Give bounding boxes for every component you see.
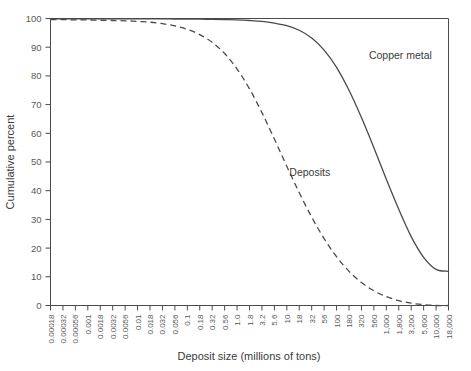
x-axis-tick-label: 0.018 — [146, 314, 155, 335]
x-axis-tick-label: 56 — [320, 314, 329, 323]
x-axis-tick-label: 18 — [295, 314, 304, 323]
x-axis-tick-label: 1.0 — [233, 314, 242, 326]
x-axis-tick-label: 0.18 — [196, 314, 205, 330]
y-axis-tick-label: 20 — [31, 243, 42, 254]
y-axis-tick-label: 80 — [31, 70, 42, 81]
y-axis-tick-label: 10 — [31, 271, 42, 282]
x-axis-tick-label: 0.032 — [158, 314, 167, 335]
series-label-copper-metal: Copper metal — [369, 49, 432, 61]
x-axis-tick-label: 0.0032 — [109, 314, 118, 339]
y-axis-tick-label: 50 — [31, 156, 42, 167]
x-axis-tick-label: 0.00018 — [47, 314, 56, 343]
y-axis-tick-label: 40 — [31, 185, 42, 196]
x-axis-tick-label: 3.2 — [258, 314, 267, 326]
x-axis-tick-label: 3,200 — [407, 314, 416, 335]
x-axis-tick-label: 0.1 — [183, 314, 192, 326]
y-axis-tick-label: 30 — [31, 214, 42, 225]
x-axis-tick-label: 1,000 — [382, 314, 391, 335]
x-axis-tick-label: 0.0056 — [121, 314, 130, 339]
x-axis: 0.000180.000320.000560.0010.00180.00320.… — [47, 306, 454, 344]
x-axis-tick-label: 10,000 — [432, 314, 441, 339]
cumulative-percent-chart: 0102030405060708090100 0.000180.000320.0… — [0, 0, 471, 371]
chart-figure: 0102030405060708090100 0.000180.000320.0… — [0, 0, 471, 371]
y-axis-tick-label: 60 — [31, 128, 42, 139]
x-axis-tick-label: 5,600 — [420, 314, 429, 335]
x-axis-tick-label: 32 — [308, 314, 317, 323]
x-axis-tick-label: 0.00032 — [59, 314, 68, 343]
x-axis-tick-label: 0.32 — [208, 314, 217, 330]
x-axis-tick-label: 18,000 — [445, 314, 454, 339]
x-axis-tick-label: 100 — [333, 314, 342, 328]
x-axis-tick-label: 0.56 — [221, 314, 230, 330]
x-axis-tick-label: 1,800 — [395, 314, 404, 335]
y-axis-title: Cumulative percent — [4, 115, 16, 210]
x-axis-tick-label: 0.00056 — [71, 314, 80, 343]
series-layer — [51, 19, 449, 306]
x-axis-tick-label: 10 — [283, 314, 292, 323]
series-annotations: DepositsCopper metal — [289, 49, 432, 179]
x-axis-tick-label: 0.01 — [134, 314, 143, 330]
y-axis-tick-label: 90 — [31, 42, 42, 53]
x-axis-tick-label: 1.8 — [246, 314, 255, 326]
x-axis-tick-label: 0.0018 — [96, 314, 105, 339]
y-axis-tick-label: 70 — [31, 99, 42, 110]
x-axis-tick-label: 5.6 — [270, 314, 279, 326]
series-line-deposits — [51, 20, 449, 306]
series-label-deposits: Deposits — [289, 166, 330, 178]
x-axis-tick-label: 320 — [357, 314, 366, 328]
x-axis-tick-label: 180 — [345, 314, 354, 328]
x-axis-tick-label: 0.056 — [171, 314, 180, 335]
y-axis-tick-label: 0 — [36, 300, 41, 311]
y-axis: 0102030405060708090100 — [26, 13, 51, 311]
x-axis-tick-label: 0.001 — [84, 314, 93, 335]
x-axis-tick-label: 560 — [370, 314, 379, 328]
x-axis-title: Deposit size (millions of tons) — [177, 350, 320, 362]
plot-frame — [51, 19, 449, 306]
y-axis-tick-label: 100 — [26, 13, 42, 24]
